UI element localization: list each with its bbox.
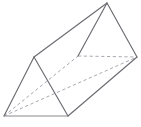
prism-diagram: Triangular prism wireframe diagram	[0, 0, 141, 127]
prism-figure: Triangular prism wireframe diagram	[0, 0, 141, 127]
